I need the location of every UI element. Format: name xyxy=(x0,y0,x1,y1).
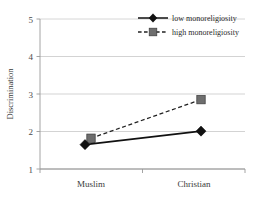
chart-container: 5 4 3 2 1 Discrimination Muslim Christia… xyxy=(0,0,256,199)
y-tick-label-4: 4 xyxy=(29,52,34,62)
y-axis-title: Discrimination xyxy=(5,68,15,120)
y-tick-label-5: 5 xyxy=(29,15,34,25)
y-tick-label-2: 2 xyxy=(29,127,34,137)
discrimination-line-chart: 5 4 3 2 1 Discrimination Muslim Christia… xyxy=(0,0,256,199)
legend-entry-high: high monoreligiosity xyxy=(138,28,239,37)
legend-label-low: low monoreligiosity xyxy=(172,14,237,23)
y-tick-label-1: 1 xyxy=(29,165,34,175)
series-high-marker-muslim xyxy=(87,134,95,142)
x-category-label-christian: Christian xyxy=(178,179,211,189)
legend-marker-square-icon xyxy=(149,28,157,36)
series-high-marker-christian xyxy=(197,95,205,103)
legend-entry-low: low monoreligiosity xyxy=(138,14,237,23)
y-tick-label-3: 3 xyxy=(29,90,34,100)
x-category-label-muslim: Muslim xyxy=(77,179,105,189)
legend-label-high: high monoreligiosity xyxy=(172,28,239,37)
